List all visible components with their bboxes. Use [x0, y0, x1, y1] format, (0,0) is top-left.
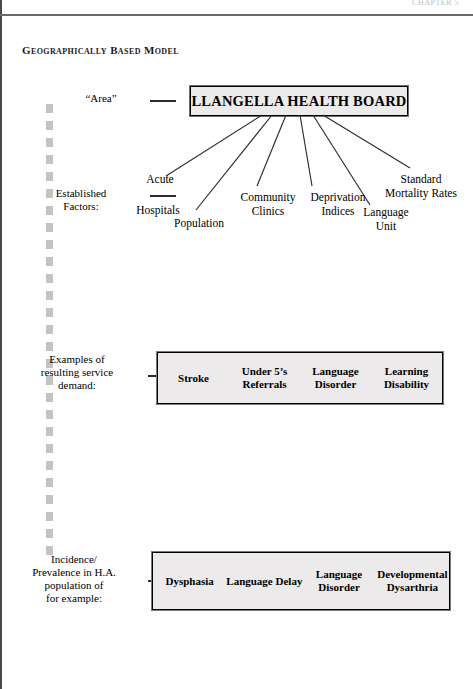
health-board-box: LLANGELLA HEALTH BOARD	[190, 86, 408, 116]
demand-cell-under-5s-referrals: Under 5’s Referrals	[229, 365, 300, 391]
dashed-spine	[46, 104, 53, 556]
stage-label-area: “Area”	[62, 92, 140, 105]
incidence-cell-developmental-dysarthria: Developmental Dysarthria	[376, 568, 449, 594]
running-header: CHAPTER 5	[412, 0, 459, 7]
demand-cell-learning-disability: Learning Disability	[371, 365, 442, 391]
demand-cell-language-disorder: Language Disorder	[300, 365, 371, 391]
incidence-cell-language-delay: Language Delay	[226, 575, 302, 588]
incidence-cell-language-disorder: Language Disorder	[302, 568, 375, 594]
connector-tick-established-factors	[150, 195, 176, 197]
incidence-cell-dysphasia: Dysphasia	[153, 575, 226, 588]
page-left-edge	[0, 0, 2, 689]
document-page: CHAPTER 5 Geographically Based Model “Ar…	[0, 0, 473, 689]
factor-standard-mortality-rates: Standard Mortality Rates	[372, 172, 470, 200]
factor-language-unit: Language Unit	[352, 205, 420, 233]
stage-label-service-demand: Examples of resulting service demand:	[14, 353, 140, 392]
health-board-title: LLANGELLA HEALTH BOARD	[192, 93, 407, 110]
stage-label-incidence-prevalence: Incidence/ Prevalence in H.A. population…	[6, 553, 142, 605]
factor-hospitals: Hospitals	[120, 203, 196, 217]
figure-title: Geographically Based Model	[22, 44, 179, 56]
connector-tick-area	[150, 100, 176, 102]
factor-population: Population	[158, 216, 240, 230]
factor-acute: Acute	[128, 172, 192, 186]
demand-cell-stroke: Stroke	[158, 372, 229, 385]
incidence-prevalence-box: Dysphasia Language Delay Language Disord…	[152, 552, 450, 610]
header-rule	[0, 14, 473, 16]
service-demand-box: Stroke Under 5’s Referrals Language Diso…	[157, 352, 443, 404]
